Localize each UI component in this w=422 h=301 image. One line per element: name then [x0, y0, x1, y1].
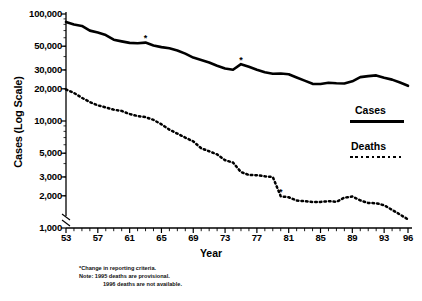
footnote-3: 1996 deaths are not available.	[103, 281, 182, 287]
footnote-1: *Change in reporting criteria.	[79, 265, 156, 271]
legend-swatch-cases	[350, 120, 404, 123]
axis-break-mark-lower	[62, 220, 70, 226]
legend-label-deaths: Deaths	[351, 140, 386, 152]
series-line-cases	[66, 22, 408, 86]
chart-container: Cases (Log Scale) 100,00050,00030,00020,…	[0, 0, 422, 301]
legend-label-cases: Cases	[355, 104, 386, 116]
footnote-2: Note: 1995 deaths are provisional.	[79, 273, 170, 279]
annotation-asterisk-cases-63: *	[144, 33, 148, 43]
annotation-asterisk-deaths-80: *	[279, 187, 283, 197]
legend-swatch-deaths	[350, 156, 404, 158]
annotation-asterisk-cases-75: *	[239, 55, 243, 65]
